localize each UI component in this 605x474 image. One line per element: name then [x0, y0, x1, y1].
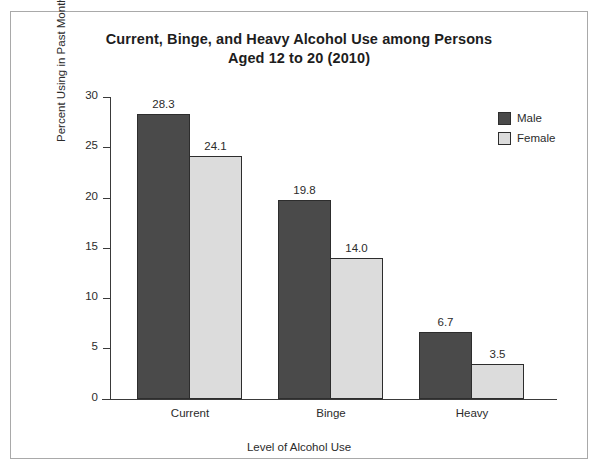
- legend: Male Female: [498, 108, 555, 148]
- chart-title: Current, Binge, and Heavy Alcohol Use am…: [11, 30, 587, 68]
- bar-value-binge-female: 14.0: [345, 242, 367, 254]
- chart-frame: Current, Binge, and Heavy Alcohol Use am…: [10, 11, 588, 459]
- y-tick-10: 10: [103, 298, 110, 299]
- chart-title-line-2: Aged 12 to 20 (2010): [11, 49, 587, 68]
- y-tick-15: 15: [103, 248, 110, 249]
- legend-label-female: Female: [517, 132, 555, 144]
- y-tick-label-10: 10: [85, 290, 98, 302]
- bar-value-current-male: 28.3: [152, 98, 174, 110]
- bar-value-current-female: 24.1: [204, 140, 226, 152]
- x-tick-label-current: Current: [171, 407, 209, 419]
- bar-binge-female[interactable]: 14.0: [330, 258, 383, 399]
- source-note: [12, 466, 572, 474]
- x-axis-line: [102, 399, 557, 400]
- legend-label-male: Male: [517, 112, 542, 124]
- bar-value-binge-male: 19.8: [293, 184, 315, 196]
- y-tick-label-5: 5: [92, 340, 98, 352]
- y-tick-label-15: 15: [85, 240, 98, 252]
- y-tick-30: 30: [103, 97, 110, 98]
- bar-heavy-female[interactable]: 3.5: [471, 364, 524, 399]
- y-axis-title: Percent Using in Past Month: [55, 0, 67, 142]
- legend-item-male[interactable]: Male: [498, 108, 555, 128]
- y-tick-25: 25: [103, 147, 110, 148]
- legend-swatch-male-icon: [498, 112, 511, 125]
- chart-title-line-1: Current, Binge, and Heavy Alcohol Use am…: [11, 30, 587, 49]
- legend-item-female[interactable]: Female: [498, 128, 555, 148]
- bar-current-male[interactable]: 28.3: [137, 114, 190, 399]
- y-axis-line: [110, 97, 111, 400]
- bar-value-heavy-female: 3.5: [490, 348, 506, 360]
- y-tick-label-0: 0: [92, 391, 98, 403]
- y-tick-label-30: 30: [85, 89, 98, 101]
- y-tick-0: 0: [103, 399, 110, 400]
- y-tick-5: 5: [103, 348, 110, 349]
- bar-current-female[interactable]: 24.1: [189, 156, 242, 399]
- legend-swatch-female-icon: [498, 132, 511, 145]
- y-tick-label-20: 20: [85, 190, 98, 202]
- bar-binge-male[interactable]: 19.8: [278, 200, 331, 399]
- bar-value-heavy-male: 6.7: [438, 316, 454, 328]
- x-axis-title: Level of Alcohol Use: [11, 441, 587, 453]
- bar-heavy-male[interactable]: 6.7: [419, 332, 472, 399]
- plot-area: 0 5 10 15 20 25 30 28.3 24.1 Current 19.: [110, 97, 554, 399]
- x-tick-label-heavy: Heavy: [456, 407, 489, 419]
- x-tick-label-binge: Binge: [316, 407, 345, 419]
- y-tick-label-25: 25: [85, 139, 98, 151]
- y-tick-20: 20: [103, 198, 110, 199]
